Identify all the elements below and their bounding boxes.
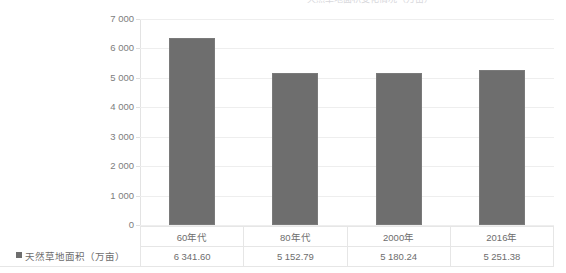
table-value-cell: 5 251.38 [450, 247, 553, 267]
y-axis-label: 5 000 [74, 73, 134, 83]
gridline [140, 19, 554, 20]
table-header-cell: 80年代 [244, 227, 347, 247]
y-axis-tick [136, 48, 140, 49]
table-value-cell: 6 341.60 [141, 247, 244, 267]
y-axis-tick [136, 196, 140, 197]
chart-title: 天然草地面积变化情况（万亩） [180, 0, 560, 5]
y-axis-label: 6 000 [74, 43, 134, 53]
y-axis-label: 4 000 [74, 102, 134, 112]
table-header-cell: 2000年 [347, 227, 450, 247]
table-row-headers: 60年代 80年代 2000年 2016年 [0, 227, 554, 247]
table-row: 天然草地面积（万亩） 6 341.60 5 152.79 5 180.24 5 … [0, 247, 554, 267]
legend-swatch-icon [16, 252, 22, 258]
bar-chart-figure: 天然草地面积变化情况（万亩） 7 0006 0005 0004 0003 000… [0, 0, 566, 273]
legend-entry: 天然草地面积（万亩） [0, 247, 141, 267]
table-value-cell: 5 180.24 [347, 247, 450, 267]
bar [272, 73, 318, 225]
y-axis-label: 1 000 [74, 191, 134, 201]
plot-area [140, 19, 554, 225]
y-axis-label: 2 000 [74, 161, 134, 171]
y-axis-tick [136, 78, 140, 79]
bar [376, 73, 422, 225]
bar [169, 38, 215, 225]
y-axis-tick [136, 107, 140, 108]
y-axis-label: 7 000 [74, 14, 134, 24]
y-axis-label: 3 000 [74, 132, 134, 142]
table-header-cell: 2016年 [450, 227, 553, 247]
y-axis-tick [136, 225, 140, 226]
legend-label: 天然草地面积（万亩） [25, 251, 125, 262]
y-axis-tick [136, 166, 140, 167]
table-value-cell: 5 152.79 [244, 247, 347, 267]
table-corner-cell [0, 227, 141, 247]
y-axis-tick [136, 137, 140, 138]
y-axis-tick [136, 19, 140, 20]
table-header-cell: 60年代 [141, 227, 244, 247]
chart-data-table: 60年代 80年代 2000年 2016年 天然草地面积（万亩） 6 341.6… [0, 226, 554, 267]
bar [479, 70, 525, 225]
